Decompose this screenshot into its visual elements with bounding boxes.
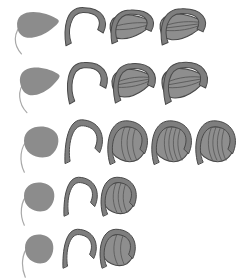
figure-root <box>0 0 250 278</box>
specimen-series-figure <box>0 0 250 278</box>
